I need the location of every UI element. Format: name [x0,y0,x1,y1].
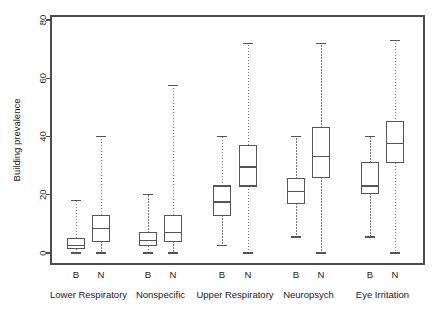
subgroup-label-n: N [245,269,252,280]
subgroup-labels: BNBNBNBNBN [73,269,399,280]
subgroup-label-b: B [367,269,373,280]
box-iqr [68,238,85,248]
box-series [68,40,404,253]
boxplot-neuropsych-n [313,43,330,253]
boxplot-nonspecific-n [165,86,182,253]
group-labels: Lower RespiratoryNonspecificUpper Respir… [50,289,409,300]
y-axis-title: Building prevalence [11,99,22,182]
subgroup-label-b: B [293,269,299,280]
subgroup-label-n: N [392,269,399,280]
subgroup-label-n: N [98,269,105,280]
boxplot-eye-irritation-n [387,40,404,253]
box-iqr [214,186,231,215]
y-axis-tick-labels: 020406080 [37,15,48,256]
subgroup-label-b: B [73,269,79,280]
boxplot-upper-respiratory-b [214,137,231,246]
box-iqr [288,179,305,204]
subgroup-label-n: N [170,269,177,280]
group-label-neuropsych: Neuropsych [283,289,334,300]
subgroup-label-b: B [145,269,151,280]
group-label-nonspecific: Nonspecific [136,289,185,300]
boxplot-neuropsych-b [288,137,305,237]
y-tick-label-20: 20 [37,189,48,200]
box-iqr [313,128,330,178]
y-tick-label-40: 40 [37,131,48,142]
y-tick-label-80: 80 [37,15,48,26]
box-iqr [362,163,379,194]
y-tick-label-0: 0 [37,250,48,255]
group-label-lower-respiratory: Lower Respiratory [50,289,127,300]
boxplot-nonspecific-b [140,195,157,253]
group-label-upper-respiratory: Upper Respiratory [196,289,273,300]
box-iqr [140,233,157,246]
boxplot-lower-respiratory-n [93,137,110,254]
box-iqr [240,145,257,186]
y-tick-label-60: 60 [37,73,48,84]
boxplot-lower-respiratory-b [68,201,85,253]
box-iqr [165,215,182,241]
plot-canvas: 020406080 BNBNBNBNBN Lower RespiratoryNo… [0,0,438,312]
boxplot-eye-irritation-b [362,137,379,237]
subgroup-label-b: B [219,269,225,280]
group-label-eye-irritation: Eye Irritation [356,289,409,300]
boxplot-chart: 020406080 BNBNBNBNBN Lower RespiratoryNo… [0,0,438,312]
box-iqr [387,122,404,163]
boxplot-upper-respiratory-n [240,43,257,253]
subgroup-label-n: N [318,269,325,280]
y-axis-title-text: Building prevalence [11,99,22,182]
